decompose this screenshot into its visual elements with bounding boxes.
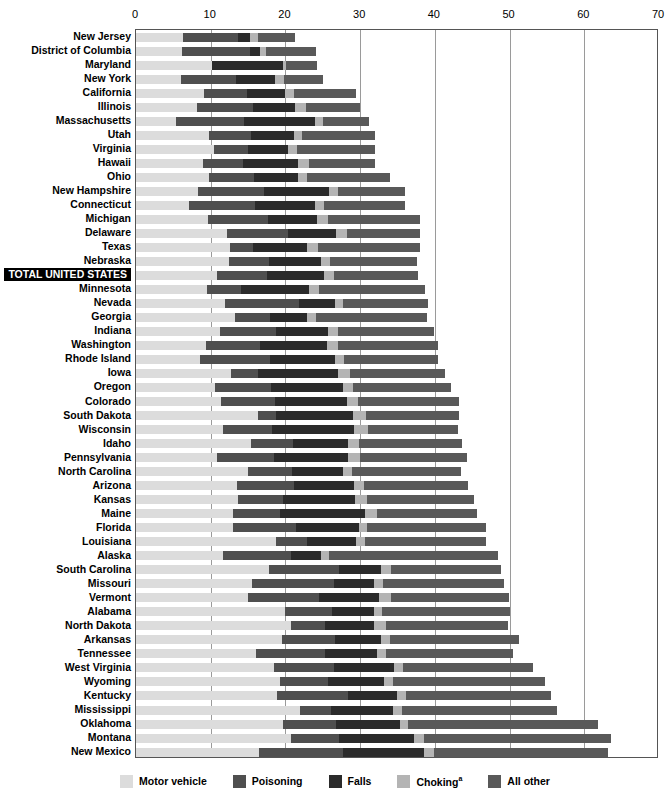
bar-segment-falls [248, 145, 288, 154]
bar-segment-motor-vehicle [136, 551, 223, 560]
bar-segment-all-other [434, 748, 608, 757]
bar-segment-poisoning [209, 173, 254, 182]
stacked-bar [136, 593, 509, 602]
stacked-bar [136, 159, 375, 168]
bar-segment-motor-vehicle [136, 271, 217, 280]
bar-segment-all-other [334, 271, 418, 280]
bar-segment-motor-vehicle [136, 621, 291, 630]
bar-segment-falls [272, 425, 354, 434]
bar-segment-choking [374, 621, 386, 630]
bar-segment-falls [332, 607, 373, 616]
bar-segment-choking [315, 201, 324, 210]
bar-segment-falls [292, 467, 343, 476]
bar-segment-all-other [402, 706, 557, 715]
bar-segment-poisoning [291, 621, 325, 630]
bar-segment-choking [424, 748, 434, 757]
legend-swatch-poisoning [233, 775, 246, 788]
bar-segment-motor-vehicle [136, 439, 251, 448]
legend-item-choking: Chokinga [397, 775, 462, 788]
bar-segment-all-other [391, 565, 500, 574]
y-label-texas: Texas [102, 239, 131, 253]
bar-segment-choking [394, 663, 404, 672]
stacked-bar [136, 481, 468, 490]
bar-segment-motor-vehicle [136, 495, 238, 504]
stacked-bar [136, 411, 459, 420]
bar-segment-poisoning [206, 341, 260, 350]
y-label-row: Minnesota [79, 281, 131, 295]
bar-segment-motor-vehicle [136, 635, 282, 644]
bar-segment-falls [325, 621, 374, 630]
y-label-district-of-columbia: District of Columbia [31, 43, 131, 57]
stacked-bar [136, 677, 545, 686]
bar-segment-choking [327, 341, 338, 350]
bar-segment-motor-vehicle [136, 453, 217, 462]
bar-segment-choking [381, 565, 391, 574]
bar-segment-motor-vehicle [136, 257, 229, 266]
y-label-massachusetts: Massachusetts [56, 113, 131, 127]
bar-segment-motor-vehicle [136, 397, 221, 406]
stacked-bar [136, 257, 417, 266]
bar-segment-all-other [403, 663, 533, 672]
y-label-row: South Dakota [63, 408, 131, 422]
bar-segment-choking [250, 33, 258, 42]
y-label-row: South Carolina [56, 562, 131, 576]
bar-segment-poisoning [223, 551, 291, 560]
y-label-row: Montana [88, 730, 131, 744]
stacked-bar [136, 173, 390, 182]
bar-segment-falls [307, 537, 356, 546]
bar-segment-poisoning [221, 397, 275, 406]
bar-segment-choking [315, 117, 322, 126]
bar-segment-all-other [307, 173, 390, 182]
y-label-row: Illinois [98, 99, 131, 113]
bar-segment-motor-vehicle [136, 201, 189, 210]
bar-segment-falls [339, 565, 381, 574]
stacked-bar [136, 355, 438, 364]
y-label-indiana: Indiana [94, 323, 131, 337]
bar-segment-poisoning [198, 187, 264, 196]
stacked-bar [136, 425, 458, 434]
y-label-new-jersey: New Jersey [73, 29, 131, 43]
bar-segment-choking [381, 635, 390, 644]
y-label-row: Vermont [89, 590, 131, 604]
y-label-north-carolina: North Carolina [58, 464, 131, 478]
bar-segment-poisoning [223, 425, 272, 434]
stacked-bar [136, 229, 420, 238]
y-label-colorado: Colorado [85, 394, 131, 408]
x-axis-tick-70: 70 [652, 8, 664, 20]
bar-segment-poisoning [230, 243, 252, 252]
bar-segment-motor-vehicle [136, 313, 235, 322]
bar-segment-all-other [319, 285, 425, 294]
stacked-bar [136, 579, 504, 588]
bar-segment-choking [377, 649, 386, 658]
bar-segment-choking [328, 327, 338, 336]
y-axis-category-labels: New JerseyDistrict of ColumbiaMarylandNe… [0, 29, 133, 758]
bar-segment-falls [268, 215, 317, 224]
x-axis-tick-30: 30 [353, 8, 365, 20]
bar-segment-falls [255, 201, 316, 210]
y-label-row: Missouri [88, 576, 131, 590]
bar-segment-all-other [353, 383, 450, 392]
bar-segment-poisoning [183, 33, 238, 42]
y-label-row: New Hampshire [52, 183, 131, 197]
stacked-bar [136, 271, 418, 280]
y-label-row: Delaware [85, 225, 131, 239]
bar-segment-all-other [344, 355, 437, 364]
y-label-georgia: Georgia [91, 309, 131, 323]
bar-segment-poisoning [225, 299, 299, 308]
stacked-bar [136, 215, 420, 224]
bar-segment-poisoning [235, 313, 269, 322]
bar-segment-all-other [366, 411, 459, 420]
bar-segment-motor-vehicle [136, 411, 258, 420]
bar-segment-motor-vehicle [136, 75, 181, 84]
legend-item-all-other: All other [488, 775, 550, 788]
bar-segment-all-other [330, 257, 417, 266]
bar-segment-falls [348, 691, 397, 700]
y-label-new-york: New York [84, 71, 131, 85]
stacked-bar [136, 299, 428, 308]
y-label-total-united-states: TOTAL UNITED STATES [4, 268, 131, 281]
bar-segment-all-other [368, 425, 458, 434]
bar-segment-falls [280, 509, 365, 518]
plot-area [135, 29, 658, 758]
bar-segment-poisoning [215, 383, 271, 392]
y-label-arizona: Arizona [92, 478, 131, 492]
